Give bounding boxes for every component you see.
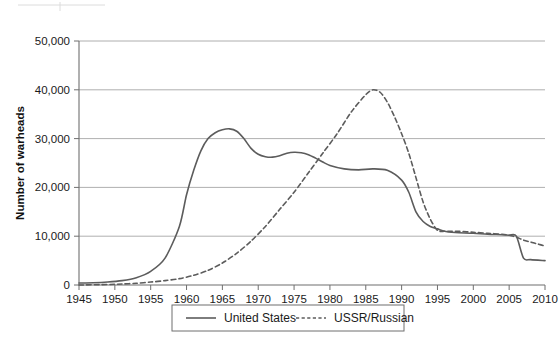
y-tick-label: 40,000 (35, 84, 70, 96)
x-tick-label: 1965 (210, 293, 236, 305)
y-axis-title: Number of warheads (14, 106, 26, 220)
y-tick-label: 50,000 (35, 35, 70, 47)
y-tick-label: 20,000 (35, 181, 70, 193)
chart-legend: United States USSR/Russian (172, 305, 414, 331)
y-axis-ticks: 010,00020,00030,00040,00050,000 (35, 35, 79, 291)
x-tick-label: 1990 (389, 293, 415, 305)
y-tick-label: 10,000 (35, 230, 70, 242)
x-tick-label: 1970 (245, 293, 271, 305)
chart-container: 010,00020,00030,00040,00050,000 19451950… (0, 0, 560, 341)
x-tick-label: 1975 (281, 293, 307, 305)
series-line-united-states (79, 129, 545, 283)
x-axis-ticks: 1945195019551960196519701975198019851990… (66, 285, 558, 305)
x-tick-label: 2000 (461, 293, 487, 305)
x-tick-label: 1960 (174, 293, 200, 305)
y-tick-label: 30,000 (35, 133, 70, 145)
x-tick-label: 2010 (532, 293, 558, 305)
gridlines (79, 41, 545, 236)
x-tick-label: 1945 (66, 293, 92, 305)
y-tick-label: 0 (64, 279, 70, 291)
nuclear-warheads-line-chart: 010,00020,00030,00040,00050,000 19451950… (0, 0, 560, 341)
x-tick-label: 2005 (496, 293, 522, 305)
legend-label-united-states: United States (224, 311, 296, 325)
x-tick-label: 1995 (425, 293, 451, 305)
legend-label-ussr-russian: USSR/Russian (334, 311, 414, 325)
x-tick-label: 1985 (353, 293, 379, 305)
x-tick-label: 1955 (138, 293, 164, 305)
page-artifact (18, 2, 105, 11)
x-tick-label: 1980 (317, 293, 343, 305)
x-tick-label: 1950 (102, 293, 128, 305)
